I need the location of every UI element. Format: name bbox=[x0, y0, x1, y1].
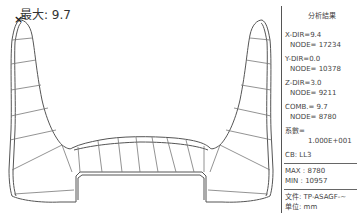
panel-title: 分析結果 bbox=[282, 11, 360, 21]
x-dir-value: X-DIR=9.4 bbox=[282, 30, 360, 40]
scale-factor-value: 1.000E+001 bbox=[282, 136, 360, 146]
y-dir-node: NODE= 10378 bbox=[282, 64, 360, 74]
x-dir-node: NODE= 17234 bbox=[282, 40, 360, 50]
divider bbox=[284, 163, 357, 164]
unit: 单位: mm bbox=[282, 202, 360, 212]
model-viewport[interactable]: × 最大: 9.7 bbox=[0, 0, 282, 213]
min-node: MIN : 10957 bbox=[282, 176, 360, 186]
max-value-label: 最大: 9.7 bbox=[20, 8, 71, 22]
comb-node: NODE= 8780 bbox=[282, 112, 360, 122]
z-dir-value: Z-DIR=3.0 bbox=[282, 78, 360, 88]
z-dir-node: NODE= 9211 bbox=[282, 88, 360, 98]
file-name: 文件: TP-ASAGF-~ bbox=[282, 192, 360, 202]
load-case: CB: LL3 bbox=[282, 150, 360, 160]
divider bbox=[284, 189, 357, 190]
results-info-panel: 分析結果 X-DIR=9.4 NODE= 17234 Y-DIR=0.0 NOD… bbox=[281, 6, 360, 213]
deformed-mesh-drawing bbox=[0, 0, 282, 213]
comb-value: COMB.= 9.7 bbox=[282, 102, 360, 112]
scale-factor-label: 系數= bbox=[282, 126, 360, 136]
y-dir-value: Y-DIR=0.0 bbox=[282, 54, 360, 64]
max-node: MAX : 8780 bbox=[282, 166, 360, 176]
